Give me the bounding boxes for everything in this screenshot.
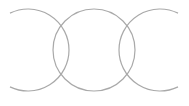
- left-circle-arc: [10, 9, 69, 91]
- diagram-canvas: [0, 0, 189, 106]
- right-circle-arc: [119, 9, 178, 91]
- middle-circle: [53, 9, 135, 91]
- overlapping-circles-diagram: [0, 0, 189, 106]
